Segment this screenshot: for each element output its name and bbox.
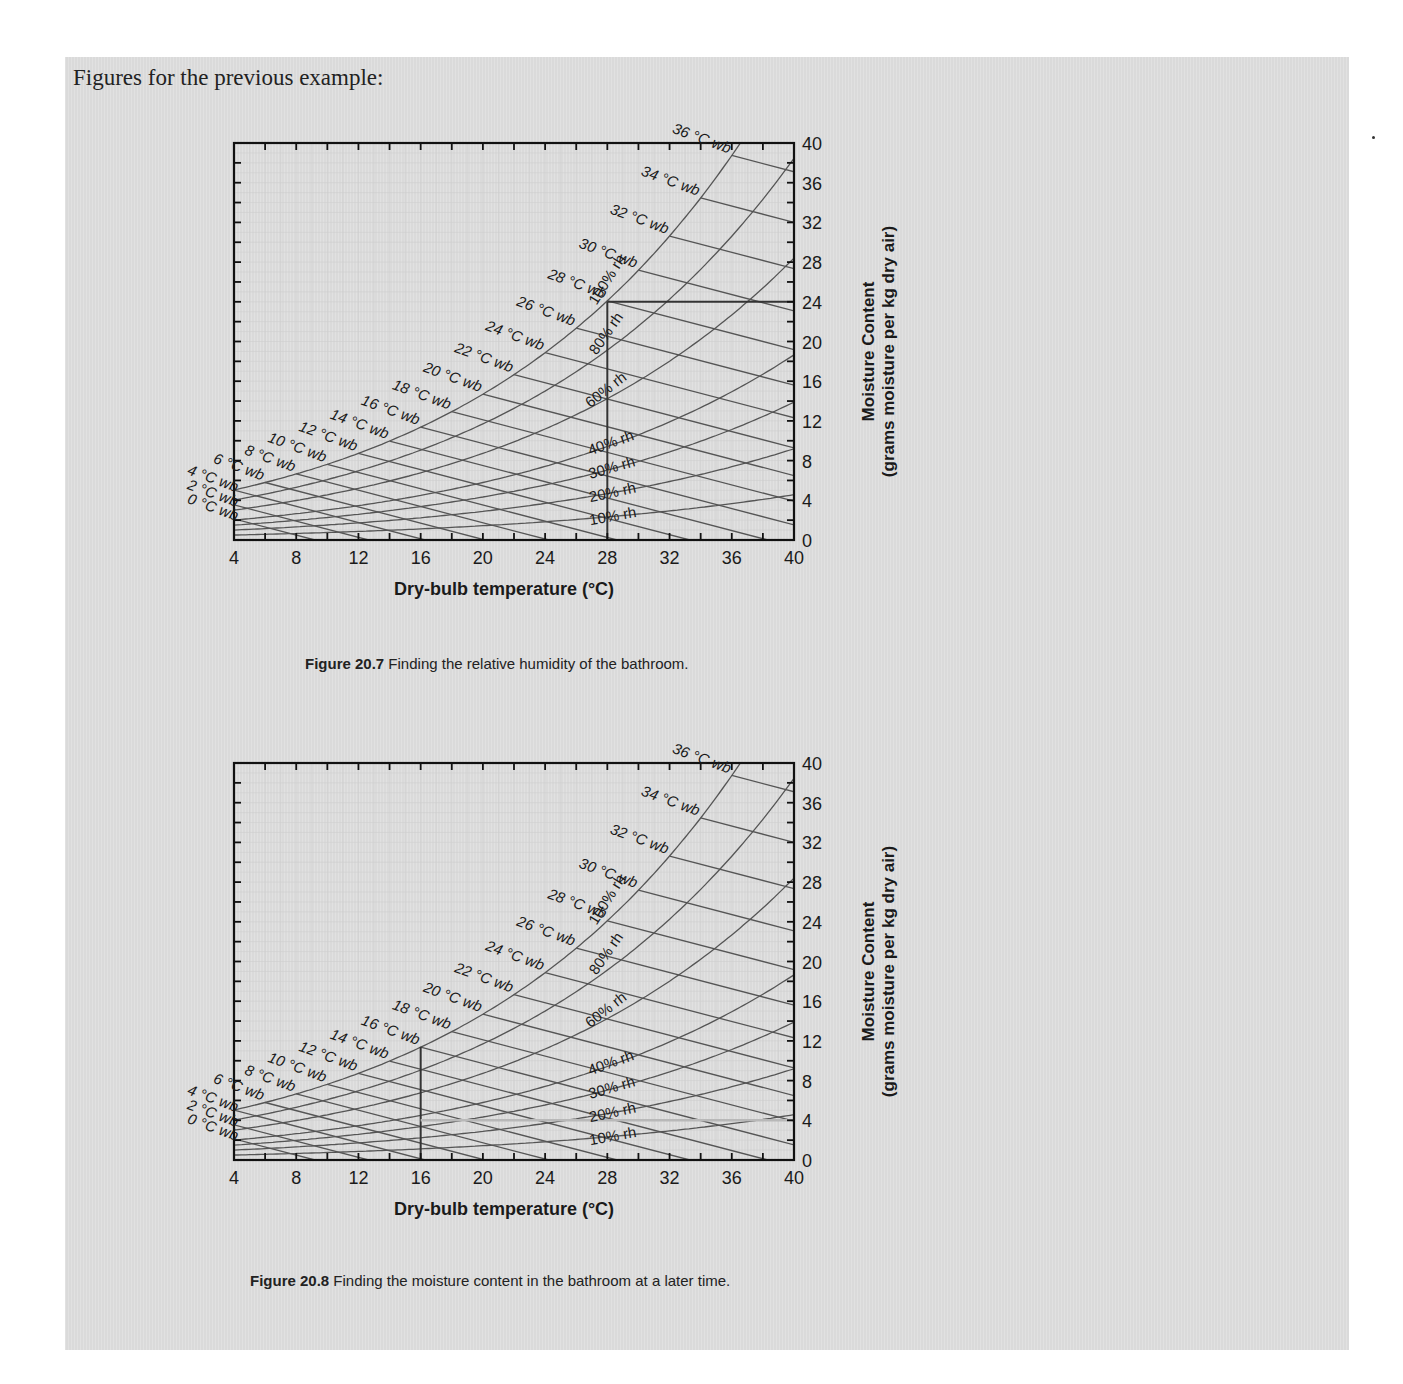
- x-tick-label: 4: [229, 548, 239, 568]
- wet-bulb-label: 34 °C wb: [639, 782, 702, 819]
- y-tick-label: 32: [802, 833, 822, 853]
- x-tick-label: 8: [291, 1168, 301, 1188]
- rh-label-20: 20% rh: [587, 479, 637, 506]
- wet-bulb-line-34: [701, 818, 1403, 1160]
- x-tick-label: 24: [535, 1168, 555, 1188]
- x-tick-label: 36: [722, 548, 742, 568]
- caption-text: Finding the moisture content in the bath…: [329, 1272, 730, 1289]
- wet-bulb-line-32: [670, 856, 1403, 1160]
- y-tick-label: 36: [802, 174, 822, 194]
- y-axis-label-units: (grams moisture per kg dry air): [879, 846, 898, 1097]
- x-tick-label: 16: [411, 548, 431, 568]
- y-tick-label: 32: [802, 213, 822, 233]
- caption-label: Figure 20.7: [305, 655, 384, 672]
- x-tick-label: 16: [411, 1168, 431, 1188]
- wet-bulb-line-34: [701, 198, 1403, 540]
- rh-label-60: 60% rh: [582, 988, 630, 1031]
- y-tick-label: 12: [802, 1032, 822, 1052]
- y-tick-label: 8: [802, 452, 812, 472]
- wet-bulb-line-10: [327, 464, 617, 540]
- y-tick-label: 20: [802, 953, 822, 973]
- x-tick-label: 20: [473, 1168, 493, 1188]
- stray-dot: [1372, 136, 1375, 139]
- caption-label: Figure 20.8: [250, 1272, 329, 1289]
- y-tick-label: 40: [802, 134, 822, 154]
- wet-bulb-line-24: [545, 353, 1261, 540]
- x-tick-label: 32: [660, 1168, 680, 1188]
- x-tick-label: 4: [229, 1168, 239, 1188]
- wet-bulb-line-12: [358, 1073, 689, 1160]
- x-tick-label: 40: [784, 1168, 804, 1188]
- figure-caption: Figure 20.8 Finding the moisture content…: [250, 1272, 730, 1289]
- x-tick-label: 40: [784, 548, 804, 568]
- y-tick-label: 12: [802, 412, 822, 432]
- wet-bulb-line-12: [358, 453, 689, 540]
- x-tick-label: 12: [348, 548, 368, 568]
- x-tick-label: 28: [597, 548, 617, 568]
- psychrometric-chart-2: 4812162024283236400481216202428323640Dry…: [155, 737, 915, 1217]
- wet-bulb-label: 26 °C wb: [514, 912, 578, 949]
- wet-bulb-line-30: [638, 270, 1403, 540]
- y-tick-label: 36: [802, 794, 822, 814]
- y-tick-label: 24: [802, 293, 822, 313]
- figure-caption: Figure 20.7 Finding the relative humidit…: [305, 655, 689, 672]
- y-tick-label: 0: [802, 1151, 812, 1171]
- wet-bulb-line-36: [732, 775, 1403, 1160]
- wet-bulb-label: 26 °C wb: [514, 292, 578, 329]
- wet-bulb-label: 36 °C wb: [670, 739, 733, 776]
- wet-bulb-line-32: [670, 236, 1403, 540]
- y-tick-label: 16: [802, 372, 822, 392]
- x-tick-label: 28: [597, 1168, 617, 1188]
- y-tick-label: 0: [802, 531, 812, 551]
- y-axis-label-units: (grams moisture per kg dry air): [879, 226, 898, 477]
- running-header: [0, 0, 700, 6]
- x-tick-label: 8: [291, 548, 301, 568]
- y-tick-label: 40: [802, 754, 822, 774]
- y-axis-label: Moisture Content: [859, 901, 878, 1041]
- caption-text: Finding the relative humidity of the bat…: [384, 655, 688, 672]
- wet-bulb-label: 32 °C wb: [608, 200, 671, 237]
- x-tick-label: 12: [348, 1168, 368, 1188]
- y-tick-label: 28: [802, 873, 822, 893]
- x-tick-label: 24: [535, 548, 555, 568]
- psychrometric-chart-1: 4812162024283236400481216202428323640Dry…: [155, 117, 915, 597]
- wet-bulb-line-20: [483, 394, 1040, 540]
- y-tick-label: 4: [802, 1111, 812, 1131]
- wet-bulb-label: 34 °C wb: [639, 162, 702, 199]
- x-tick-label: 36: [722, 1168, 742, 1188]
- y-tick-label: 8: [802, 1072, 812, 1092]
- intro-text: Figures for the previous example:: [73, 65, 383, 91]
- wet-bulb-label: 32 °C wb: [608, 820, 671, 857]
- x-axis-label: Dry-bulb temperature (°C): [394, 579, 614, 599]
- wet-bulb-line-20: [483, 1014, 1040, 1160]
- y-tick-label: 28: [802, 253, 822, 273]
- figure-panel: Figures for the previous example: 481216…: [65, 57, 1349, 1350]
- y-tick-label: 16: [802, 992, 822, 1012]
- y-tick-label: 20: [802, 333, 822, 353]
- wet-bulb-line-36: [732, 155, 1403, 540]
- x-tick-label: 20: [473, 548, 493, 568]
- y-tick-label: 24: [802, 913, 822, 933]
- y-tick-label: 4: [802, 491, 812, 511]
- x-tick-label: 32: [660, 548, 680, 568]
- y-axis-label: Moisture Content: [859, 281, 878, 421]
- wet-bulb-line-10: [327, 1084, 617, 1160]
- wet-bulb-line-24: [545, 973, 1261, 1160]
- wet-bulb-label: 36 °C wb: [670, 119, 733, 156]
- rh-label-60: 60% rh: [582, 368, 630, 411]
- x-axis-label: Dry-bulb temperature (°C): [394, 1199, 614, 1219]
